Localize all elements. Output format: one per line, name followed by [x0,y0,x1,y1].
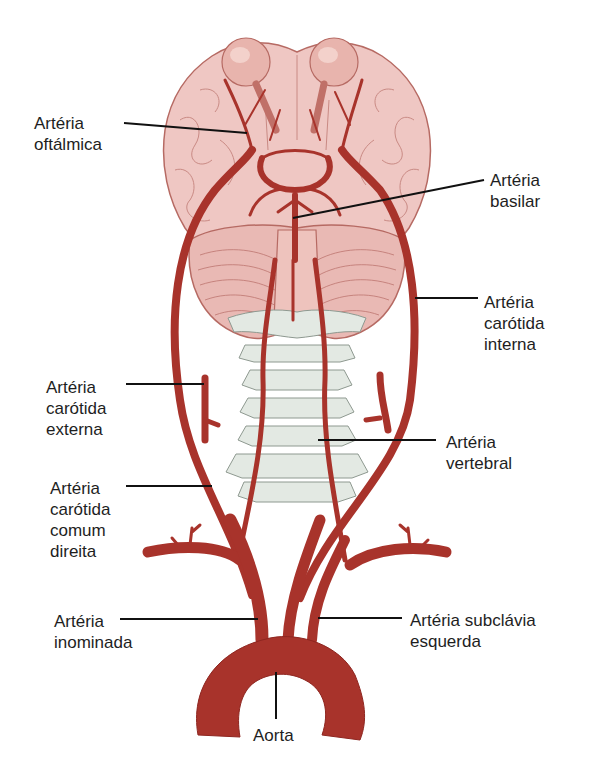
label-line: Artéria [490,170,540,191]
label-arteria-inominada: Artéria inominada [54,611,132,653]
label-line: Artéria [50,478,110,499]
label-line: esquerda [410,631,536,652]
label-line: direita [50,541,110,562]
label-line: inominada [54,632,132,653]
label-line: carótida [50,499,110,520]
label-line: Artéria [484,292,544,313]
label-line: externa [46,419,106,440]
cervical-vertebrae [226,310,368,502]
label-arteria-subclavia-esquerda: Artéria subclávia esquerda [410,610,536,652]
label-aorta: Aorta [253,725,294,746]
label-line: carótida [484,313,544,334]
label-line: carótida [46,398,106,419]
label-arteria-vertebral: Artéria vertebral [446,432,512,474]
label-line: Artéria [34,113,102,134]
label-arteria-oftalmica: Artéria oftálmica [34,113,102,155]
label-line: vertebral [446,453,512,474]
label-line: Artéria [46,377,106,398]
label-line: Aorta [253,725,294,746]
label-arteria-carotida-externa: Artéria carótida externa [46,377,106,440]
label-line: Artéria subclávia [410,610,536,631]
label-arteria-carotida-interna: Artéria carótida interna [484,292,544,355]
label-line: Artéria [446,432,512,453]
label-line: comum [50,520,110,541]
label-arteria-basilar: Artéria basilar [490,170,540,212]
label-arteria-carotida-comum-direita: Artéria carótida comum direita [50,478,110,562]
label-line: interna [484,334,544,355]
label-line: oftálmica [34,134,102,155]
label-line: Artéria [54,611,132,632]
cerebral-arteries-diagram: Artéria oftálmica Artéria basilar Artéri… [0,0,594,759]
label-line: basilar [490,191,540,212]
